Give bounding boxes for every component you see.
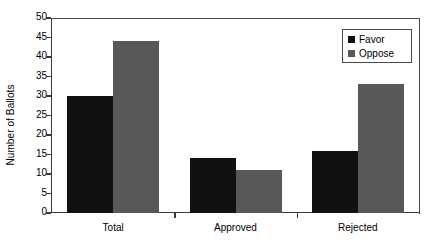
x-tick-mark <box>297 213 298 218</box>
plot-frame-right-rule <box>419 18 420 214</box>
bar-chart: Number of Ballots 05101520253035404550 T… <box>0 0 435 250</box>
y-axis-title: Number of Ballots <box>2 0 18 250</box>
y-tick-mark <box>46 173 51 174</box>
bar-oppose-total <box>113 41 159 213</box>
legend: Favor Oppose <box>342 29 412 63</box>
bar-favor-total <box>67 96 113 213</box>
y-tick-mark <box>46 212 51 213</box>
y-tick-mark <box>46 134 51 135</box>
y-tick-mark <box>46 17 51 18</box>
x-tick-mark <box>174 213 175 218</box>
legend-label-oppose: Oppose <box>359 49 394 59</box>
y-tick-mark <box>46 115 51 116</box>
y-tick-mark <box>46 193 51 194</box>
y-tick-mark <box>46 95 51 96</box>
legend-item-favor: Favor <box>348 33 411 46</box>
x-tick-label: Rejected <box>297 222 419 233</box>
y-tick-mark <box>46 56 51 57</box>
legend-item-oppose: Oppose <box>348 47 411 60</box>
bar-oppose-approved <box>236 170 282 213</box>
legend-label-favor: Favor <box>359 35 385 45</box>
y-tick-mark <box>46 154 51 155</box>
legend-swatch-favor <box>348 36 355 43</box>
bar-favor-approved <box>190 158 236 213</box>
bar-favor-rejected <box>312 151 358 213</box>
x-tick-label: Approved <box>174 222 296 233</box>
bar-oppose-rejected <box>358 84 404 213</box>
y-tick-mark <box>46 76 51 77</box>
x-tick-label: Total <box>52 222 174 233</box>
legend-swatch-oppose <box>348 50 355 57</box>
y-tick-mark <box>46 37 51 38</box>
